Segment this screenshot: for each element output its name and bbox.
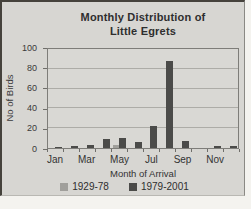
x-tick-label-jun bbox=[129, 154, 144, 165]
bar-dec-1979-2001 bbox=[230, 146, 237, 148]
y-tick-label-100: 100 bbox=[22, 44, 37, 53]
bar-mar-1979-2001 bbox=[87, 145, 94, 148]
x-tick-label-oct bbox=[191, 154, 206, 165]
x-tick-label-jan: Jan bbox=[47, 154, 63, 165]
bar-group-jan bbox=[48, 49, 64, 148]
x-tick-label-aug bbox=[159, 154, 174, 165]
y-tick-mark-80 bbox=[43, 68, 47, 69]
legend-swatch-icon bbox=[60, 183, 68, 191]
x-tick-label-apr bbox=[95, 154, 110, 165]
x-tick-mark-11 bbox=[223, 149, 224, 152]
bar-apr-1979-2001 bbox=[103, 139, 110, 148]
bar-group-aug bbox=[159, 49, 175, 148]
y-tick-label-20: 20 bbox=[27, 124, 37, 133]
x-tick-label-feb bbox=[63, 154, 78, 165]
bar-group-mar bbox=[80, 49, 96, 148]
legend-swatch-icon bbox=[129, 183, 137, 191]
legend-label: 1929-78 bbox=[72, 182, 109, 192]
bar-group-oct bbox=[190, 49, 206, 148]
x-tick-mark-12 bbox=[239, 149, 240, 152]
bar-group-jun bbox=[127, 49, 143, 148]
bar-group-sep bbox=[175, 49, 191, 148]
y-tick-label-40: 40 bbox=[27, 104, 37, 113]
y-tick-mark-40 bbox=[43, 109, 47, 110]
bar-jun-1979-2001 bbox=[135, 142, 142, 148]
y-axis-tick-labels: 020406080100 bbox=[2, 48, 44, 149]
x-tick-mark-7 bbox=[159, 149, 160, 152]
plot-area bbox=[47, 48, 239, 149]
bar-group-jul bbox=[143, 49, 159, 148]
y-tick-label-80: 80 bbox=[27, 64, 37, 73]
bar-nov-1979-2001 bbox=[214, 146, 221, 148]
x-tick-mark-0 bbox=[47, 149, 48, 152]
bar-group-may bbox=[111, 49, 127, 148]
chart-title: Monthly Distribution of Little Egrets bbox=[47, 10, 239, 38]
x-tick-label-jul: Jul bbox=[144, 154, 159, 165]
legend-item-1929-78: 1929-78 bbox=[60, 182, 109, 192]
x-tick-label-mar: Mar bbox=[78, 154, 95, 165]
y-tick-label-60: 60 bbox=[27, 84, 37, 93]
bar-feb-1979-2001 bbox=[71, 146, 78, 148]
x-tick-label-nov: Nov bbox=[206, 154, 224, 165]
bar-group-dec bbox=[222, 49, 238, 148]
bar-may-1979-2001 bbox=[119, 138, 126, 148]
legend-label: 1979-2001 bbox=[141, 182, 189, 192]
chart-title-line-2: Little Egrets bbox=[47, 24, 239, 38]
y-tick-mark-60 bbox=[43, 88, 47, 89]
x-tick-mark-8 bbox=[175, 149, 176, 152]
bar-sep-1979-2001 bbox=[182, 141, 189, 148]
x-tick-mark-10 bbox=[207, 149, 208, 152]
bar-group-apr bbox=[95, 49, 111, 148]
x-tick-mark-2 bbox=[79, 149, 80, 152]
x-tick-mark-1 bbox=[63, 149, 64, 152]
x-tick-label-dec bbox=[224, 154, 239, 165]
y-tick-mark-100 bbox=[43, 48, 47, 49]
x-axis-tick-labels: JanMarMayJulSepNov bbox=[47, 154, 239, 165]
legend-item-1979-2001: 1979-2001 bbox=[129, 182, 189, 192]
bar-jan-1979-2001 bbox=[55, 147, 62, 148]
x-tick-mark-4 bbox=[111, 149, 112, 152]
x-tick-mark-5 bbox=[127, 149, 128, 152]
bar-jul-1979-2001 bbox=[150, 126, 157, 148]
y-tick-label-0: 0 bbox=[32, 145, 37, 154]
x-tick-label-may: May bbox=[110, 154, 129, 165]
x-axis-title: Month of Arrival bbox=[47, 168, 239, 179]
x-tick-mark-6 bbox=[143, 149, 144, 152]
x-tick-mark-9 bbox=[191, 149, 192, 152]
bar-series bbox=[48, 49, 238, 148]
x-tick-label-sep: Sep bbox=[174, 154, 192, 165]
chart-figure: Monthly Distribution of Little Egrets No… bbox=[0, 0, 245, 196]
chart-title-line-1: Monthly Distribution of bbox=[47, 10, 239, 24]
bar-group-nov bbox=[206, 49, 222, 148]
bar-aug-1979-2001 bbox=[166, 61, 173, 148]
chart-legend: 1929-781979-2001 bbox=[2, 182, 247, 192]
y-tick-mark-20 bbox=[43, 129, 47, 130]
x-tick-mark-3 bbox=[95, 149, 96, 152]
bar-group-feb bbox=[64, 49, 80, 148]
